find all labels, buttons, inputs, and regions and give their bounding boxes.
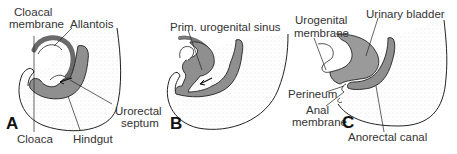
label-anorectal-canal: Anorectal canal (348, 131, 427, 143)
label-cloacal-membrane-line1: Cloacal (14, 6, 52, 18)
label-cloacal-membrane-line2: membrane (9, 18, 64, 30)
label-urinary-bladder: Urinary bladder (366, 8, 445, 20)
label-cloaca: Cloaca (17, 133, 53, 145)
panel-letter-c: C (342, 114, 354, 131)
label-prim-urogenital-sinus: Prim. urogenital sinus (170, 21, 281, 33)
label-allantois: Allantois (70, 18, 113, 30)
label-perineum: Perineum (288, 88, 337, 100)
panel-a: Cloacal membrane Allantois Urorectal sep… (0, 0, 150, 154)
panel-b: Prim. urogenital sinus B (150, 0, 300, 154)
label-urogenital-membrane-line2: membrane (294, 27, 349, 39)
panel-c: Urogenital membrane Urinary bladder Peri… (300, 0, 457, 154)
label-hindgut: Hindgut (73, 133, 113, 145)
panel-letter-a: A (6, 115, 18, 132)
label-anal-membrane-line1: Anal (306, 104, 329, 116)
panel-letter-b: B (170, 115, 182, 132)
label-anal-membrane-line2: membrane (292, 116, 347, 128)
label-urogenital-membrane-line1: Urogenital (295, 14, 347, 26)
